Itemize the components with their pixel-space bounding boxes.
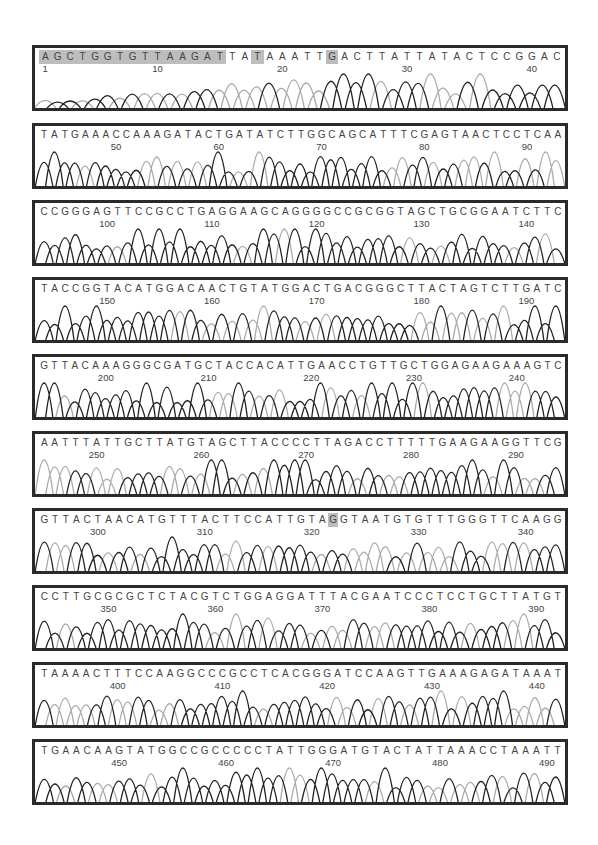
base-call: A — [437, 667, 447, 681]
base-call: T — [450, 128, 460, 142]
base-call: T — [542, 282, 552, 296]
base-call: G — [301, 205, 311, 219]
base-call: A — [114, 513, 125, 527]
base-call: A — [238, 205, 248, 219]
base-call: A — [196, 282, 206, 296]
base-call: T — [183, 359, 193, 373]
fluorescence-trace — [35, 148, 565, 186]
base-call: C — [238, 667, 248, 681]
base-call: G — [280, 282, 290, 296]
base-call: A — [490, 436, 500, 450]
base-call: T — [286, 128, 296, 142]
base-call: G — [102, 205, 112, 219]
base-call: G — [477, 590, 488, 604]
base-call: C — [275, 128, 285, 142]
base-call: A — [532, 667, 542, 681]
base-call: A — [164, 50, 176, 64]
base-call: T — [435, 513, 446, 527]
base-call: T — [358, 359, 368, 373]
base-call: A — [520, 744, 531, 758]
fluorescence-trace — [35, 764, 565, 802]
base-call: C — [364, 667, 374, 681]
base-call: T — [403, 744, 414, 758]
base-call: A — [60, 744, 71, 758]
base-call: G — [360, 590, 371, 604]
base-call: T — [226, 50, 238, 64]
base-call: A — [510, 744, 521, 758]
base-call: C — [60, 282, 70, 296]
chromatogram-panel: GTTACTAACATGTTTACTTCCATTGTAGGTAATGTGTTTG… — [32, 508, 568, 574]
base-call: G — [469, 436, 479, 450]
base-call: C — [413, 590, 424, 604]
base-call: A — [427, 282, 437, 296]
base-call: T — [424, 513, 435, 527]
base-call: C — [249, 667, 259, 681]
base-call: A — [39, 436, 49, 450]
base-call: G — [469, 282, 479, 296]
base-call: G — [353, 205, 363, 219]
base-call: C — [265, 359, 275, 373]
base-call: C — [49, 205, 59, 219]
base-call: G — [392, 513, 403, 527]
base-call: T — [416, 436, 426, 450]
base-call: T — [102, 282, 112, 296]
base-call: T — [81, 436, 91, 450]
base-call: G — [162, 128, 172, 142]
base-call: T — [265, 128, 275, 142]
base-call: T — [349, 744, 360, 758]
base-call: C — [92, 590, 103, 604]
base-call: A — [60, 667, 70, 681]
base-call: G — [157, 744, 168, 758]
base-call: G — [427, 667, 437, 681]
base-call: A — [353, 436, 363, 450]
base-call: A — [542, 128, 552, 142]
base-call: T — [438, 50, 450, 64]
base-call: G — [291, 282, 301, 296]
base-call: A — [173, 128, 183, 142]
base-call: A — [112, 282, 122, 296]
base-call: A — [91, 205, 101, 219]
base-call: A — [103, 744, 114, 758]
base-call: T — [228, 282, 238, 296]
base-call: A — [207, 436, 217, 450]
base-call: C — [395, 282, 405, 296]
base-call: G — [311, 205, 321, 219]
base-call: G — [301, 667, 311, 681]
base-call: A — [49, 282, 59, 296]
base-call: C — [403, 590, 414, 604]
base-call: A — [289, 50, 301, 64]
base-call: C — [123, 282, 133, 296]
fluorescence-trace — [35, 379, 565, 417]
base-call: T — [427, 436, 437, 450]
base-call: A — [448, 667, 458, 681]
fluorescence-trace — [35, 225, 565, 263]
base-call: C — [501, 128, 511, 142]
base-call: G — [343, 436, 353, 450]
base-call: T — [146, 513, 157, 527]
base-call: T — [102, 436, 112, 450]
base-call: A — [501, 359, 511, 373]
base-call: A — [234, 128, 244, 142]
base-call: G — [285, 590, 296, 604]
base-call: T — [60, 513, 71, 527]
base-call: T — [60, 128, 70, 142]
base-call: G — [154, 205, 164, 219]
base-call: C — [532, 128, 542, 142]
base-call: C — [152, 359, 162, 373]
base-call: A — [71, 513, 82, 527]
base-call: C — [364, 436, 374, 450]
base-call: C — [133, 667, 143, 681]
base-call: G — [154, 282, 164, 296]
base-call: G — [242, 590, 253, 604]
base-call: T — [419, 359, 429, 373]
base-call: G — [175, 667, 185, 681]
base-call: T — [123, 205, 133, 219]
base-call: A — [207, 282, 217, 296]
base-call: G — [479, 205, 489, 219]
base-call: A — [49, 667, 59, 681]
base-call: G — [328, 513, 339, 527]
base-call: T — [123, 667, 133, 681]
base-call: A — [467, 744, 478, 758]
base-call: T — [274, 513, 285, 527]
base-call: T — [125, 744, 136, 758]
